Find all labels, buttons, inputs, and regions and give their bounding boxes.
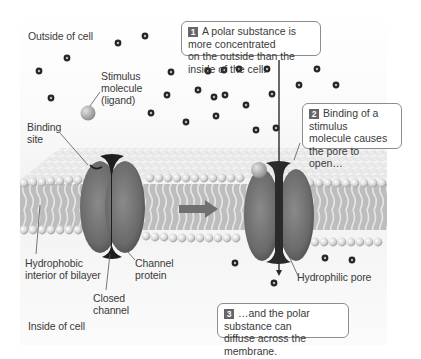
- stimulus-molecule-ligand: [81, 106, 96, 121]
- step-badge-1: 1: [188, 27, 198, 37]
- closed-channel-protein: [80, 154, 145, 259]
- diagram-canvas: Outside of cell Stimulus molecule (ligan…: [0, 0, 421, 359]
- step-badge-3: 3: [224, 309, 234, 319]
- outside-of-cell-label: Outside of cell: [28, 30, 93, 42]
- stimulus-molecule-label: Stimulus molecule (ligand): [101, 70, 142, 106]
- binding-site-label: Binding site: [27, 121, 61, 145]
- callout-step-3: 3…and the polar substance can diffuse ac…: [217, 303, 349, 338]
- bound-ligand: [251, 162, 267, 178]
- hydrophobic-interior-label: Hydrophobic interior of bilayer: [25, 257, 101, 281]
- callout-step-1: 1A polar substance is more concentrated …: [181, 21, 321, 56]
- hydrophilic-pore-label: Hydrophilic pore: [297, 271, 371, 283]
- callout-step-2: 2Binding of a stimulus molecule causes t…: [302, 103, 402, 149]
- step-badge-2: 2: [309, 109, 319, 119]
- channel-protein-label: Channel protein: [135, 257, 173, 281]
- closed-channel-label: Closed channel: [93, 292, 129, 316]
- inside-of-cell-label: Inside of cell: [28, 320, 85, 332]
